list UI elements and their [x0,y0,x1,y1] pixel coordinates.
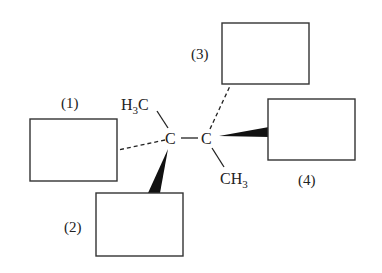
answer-box-2[interactable] [96,193,183,256]
box-label-3: (3) [191,46,209,63]
box-label-4: (4) [298,172,316,189]
box-label-1: (1) [61,95,79,112]
ch3-subscript: 3 [242,178,248,190]
h3c-c: C [138,96,149,113]
answer-box-1[interactable] [30,119,117,181]
box-label-2: (2) [64,219,82,236]
wedge-bond-c2-box4 [219,127,269,137]
bond-h3c-c1 [157,111,168,128]
answer-box-4[interactable] [268,99,355,160]
dashed-bond-c1-box1 [118,140,165,150]
atom-h3c: H3C [121,96,149,116]
atom-c1: C [165,130,176,147]
answer-box-3[interactable] [222,23,309,84]
atom-c2: C [201,130,212,147]
molecule-diagram: (1) (2) (3) (4) H3C C C CH3 [0,0,382,273]
wedge-bond-c1-box2 [148,149,168,193]
ch3-ch: CH [220,170,243,187]
atom-ch3: CH3 [220,170,248,190]
bond-c2-ch3 [212,148,224,167]
dashed-bond-c2-box3 [210,86,230,129]
h3c-h: H [121,96,133,113]
